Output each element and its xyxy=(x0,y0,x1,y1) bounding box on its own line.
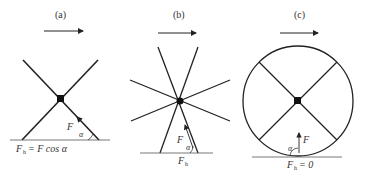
formula-sub: h xyxy=(294,165,297,171)
hub-icon xyxy=(294,97,301,104)
angle-arc xyxy=(88,134,93,140)
angle-label: α xyxy=(79,130,84,139)
panel-c-label: (c) xyxy=(294,9,305,21)
formula-sub: h xyxy=(23,149,26,155)
diagram-canvas: (a) F α F h = F cos α (b) F α F h (c) xyxy=(0,0,370,175)
formula-rhs: = F cos α xyxy=(28,143,68,154)
formula-lhs: F xyxy=(15,143,23,154)
formula-sub: h xyxy=(185,161,188,167)
force-arrow-icon xyxy=(77,117,88,128)
hub-icon xyxy=(57,95,64,102)
formula-rhs: = 0 xyxy=(299,159,313,170)
formula-lhs: F xyxy=(286,159,294,170)
angle-label: α xyxy=(186,143,191,152)
angle-label: α xyxy=(288,144,293,153)
force-label: F xyxy=(176,134,184,145)
panel-a-label: (a) xyxy=(55,9,66,21)
force-label: F xyxy=(66,121,74,132)
panel-b-label: (b) xyxy=(173,9,185,21)
panel-a: (a) F α F h = F cos α xyxy=(10,9,110,155)
panel-c: (c) F α F h = 0 xyxy=(243,9,353,171)
hub-icon xyxy=(177,98,184,105)
formula-lhs: F xyxy=(177,155,185,166)
force-label: F xyxy=(302,134,310,145)
panel-b: (b) F α F h xyxy=(130,9,230,167)
